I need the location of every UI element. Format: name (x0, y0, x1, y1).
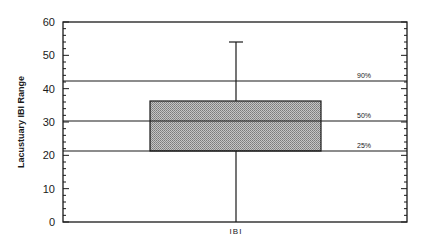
iqr-box (150, 101, 321, 151)
y-tick-label: 40 (43, 83, 55, 95)
y-axis-tick-labels: 0102030405060 (43, 16, 55, 228)
y-tick-label: 20 (43, 149, 55, 161)
y-tick-label: 30 (43, 116, 55, 128)
y-tick-label: 0 (49, 216, 55, 228)
x-category-label: IBI (230, 227, 243, 236)
box-plot-chart: 0102030405060 Lacustuary IBI Range IBI 9… (0, 0, 428, 239)
reference-line-label: 25% (357, 142, 371, 149)
reference-line-label: 50% (357, 112, 371, 119)
reference-line-label: 90% (357, 72, 371, 79)
y-tick-label: 60 (43, 16, 55, 28)
y-axis-label: Lacustuary IBI Range (16, 76, 26, 168)
y-tick-label: 10 (43, 183, 55, 195)
y-tick-label: 50 (43, 49, 55, 61)
box-plot (150, 42, 321, 222)
